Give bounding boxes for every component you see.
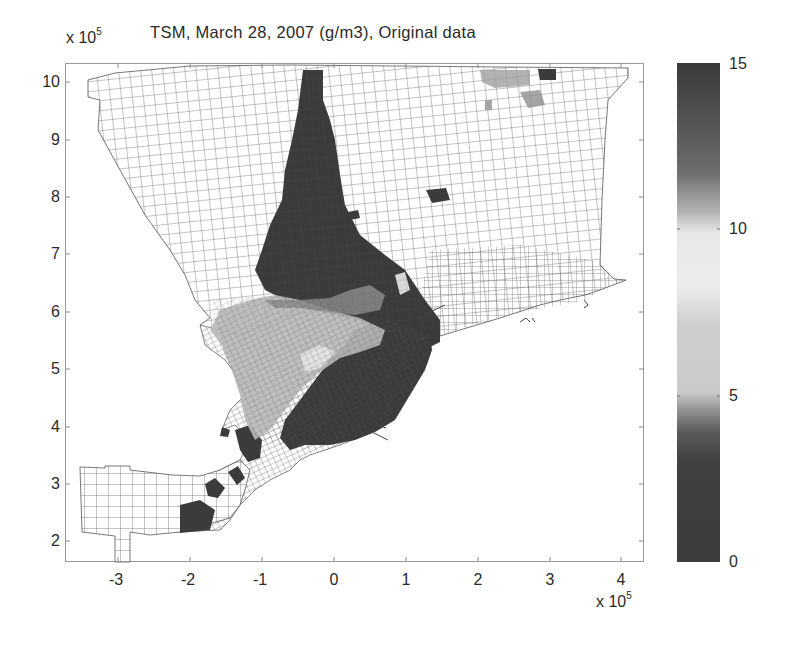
y-tick-5: 5 xyxy=(30,360,60,378)
x-tick-0: 0 xyxy=(319,571,349,589)
x-axis-exponent: x 105 xyxy=(596,592,632,611)
colorbar-tick-0: 0 xyxy=(729,553,738,571)
y-tick-9: 9 xyxy=(30,131,60,149)
y-tick-6: 6 xyxy=(30,303,60,321)
x-exponent-power: 5 xyxy=(626,590,632,601)
map-plot xyxy=(0,0,789,653)
colorbar-tick-10: 10 xyxy=(729,220,747,238)
y-tick-10: 10 xyxy=(30,73,60,91)
x-tick-4: 4 xyxy=(606,571,636,589)
x-exponent-base: x 10 xyxy=(596,593,626,610)
y-tick-2: 2 xyxy=(30,532,60,550)
strait-mesh xyxy=(80,460,250,562)
x-tick-2: 2 xyxy=(463,571,493,589)
y-tick-8: 8 xyxy=(30,188,60,206)
x-tick-1: 1 xyxy=(391,571,421,589)
y-tick-4: 4 xyxy=(30,418,60,436)
x-tick--2: -2 xyxy=(173,571,203,589)
x-tick--1: -1 xyxy=(245,571,275,589)
x-tick--3: -3 xyxy=(101,571,131,589)
colorbar-tick-15: 15 xyxy=(729,55,747,73)
y-tick-7: 7 xyxy=(30,245,60,263)
y-tick-3: 3 xyxy=(30,475,60,493)
x-tick-3: 3 xyxy=(535,571,565,589)
colorbar xyxy=(677,63,720,562)
colorbar-tick-5: 5 xyxy=(729,387,738,405)
